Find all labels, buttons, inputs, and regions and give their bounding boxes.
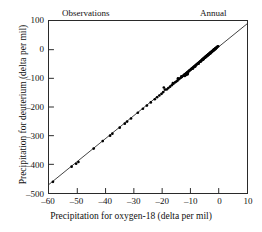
data-point	[118, 126, 121, 129]
data-point	[177, 77, 180, 80]
data-point	[146, 104, 149, 107]
data-point	[52, 180, 55, 183]
data-point	[123, 122, 126, 125]
data-point	[101, 140, 104, 143]
scatter-plot-figure: Observations Annual –500–400–300–200–100…	[0, 0, 262, 232]
data-point	[194, 65, 197, 68]
x-axis-tick-labels: –60–50–40–30–20–10010	[0, 197, 262, 209]
data-point	[192, 67, 195, 70]
data-point	[197, 62, 200, 65]
tick-marks-group	[49, 50, 219, 193]
data-point	[149, 101, 152, 104]
plot-area	[48, 20, 248, 194]
x-axis-title: Precipitation for oxygen-18 (delta per m…	[0, 211, 262, 222]
data-point	[180, 75, 183, 78]
plot-canvas	[49, 21, 247, 193]
data-point	[158, 94, 161, 97]
data-point	[75, 162, 78, 165]
data-point	[70, 165, 73, 168]
annotation-observations: Observations	[62, 8, 110, 19]
data-point	[111, 132, 114, 135]
data-point	[153, 98, 156, 101]
data-point	[77, 161, 80, 164]
data-point	[156, 96, 159, 99]
annotation-annual: Annual	[200, 8, 227, 19]
y-axis-title: Precipitation for deuterium (delta per m…	[18, 10, 29, 200]
data-point	[217, 45, 220, 48]
data-point	[130, 117, 133, 120]
data-point	[92, 147, 95, 150]
data-point	[163, 86, 166, 89]
data-point	[109, 134, 112, 137]
data-point	[187, 72, 190, 75]
data-point	[126, 120, 129, 123]
x-tick-label: 10	[228, 197, 262, 206]
data-point	[214, 48, 217, 51]
data-point	[162, 91, 165, 94]
data-point	[200, 60, 203, 63]
data-point	[142, 107, 145, 110]
data-point	[136, 111, 139, 114]
data-point	[172, 82, 175, 85]
